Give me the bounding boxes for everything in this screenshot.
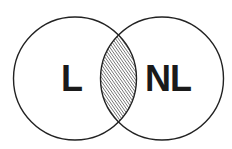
set-label-left: L — [61, 61, 82, 97]
set-label-right: NL — [145, 61, 191, 97]
venn-graphic — [0, 0, 232, 149]
